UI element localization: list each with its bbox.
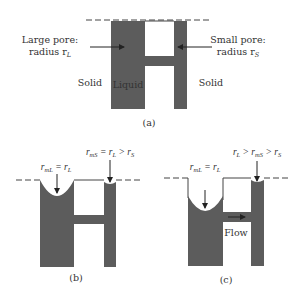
liquid-filled-pores [111,21,187,109]
large-pore-label: Large pore: [22,34,78,45]
caption-c: (c) [220,274,233,285]
solid-left-label: Solid [78,77,102,88]
meniscus-left-label: rmL = rL [190,162,221,173]
panel-c: Flow rmL = rL rL > rmS > rS (c) [164,147,288,285]
liquid-filled-pores [188,180,264,266]
meniscus-right-label: rL > rmS > rS [233,147,282,158]
flow-label: Flow [224,227,247,238]
capillary-pore-diagram: Large pore: radius rL Small pore: radius… [0,0,302,299]
small-pore-radius-label: radius rS [217,46,260,59]
large-pore-radius-label: radius rL [29,46,71,59]
liquid-label: Liquid [113,79,144,90]
solid-right-label: Solid [199,77,223,88]
liquid-filled-pores [40,180,116,267]
small-pore-label: Small pore: [210,34,265,45]
caption-b: (b) [69,272,83,283]
caption-a: (a) [142,117,155,128]
panel-b: rmL = rL rmS = rL > rS (b) [16,147,140,283]
meniscus-right-label: rmS = rL > rS [86,147,135,158]
panel-a: Large pore: radius rL Small pore: radius… [22,20,266,128]
meniscus-left-label: rmL = rL [41,162,72,173]
